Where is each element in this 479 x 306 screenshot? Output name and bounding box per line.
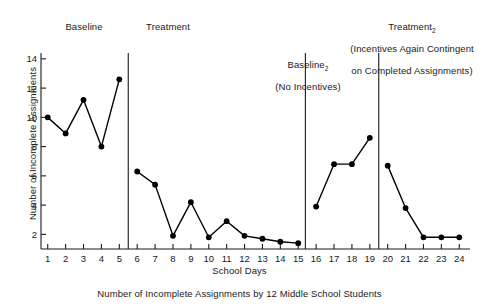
y-tick-label: 4: [32, 200, 37, 211]
data-point: [45, 114, 51, 120]
x-tick-label: 22: [418, 253, 429, 264]
data-point: [385, 163, 391, 169]
x-tick-label: 9: [188, 253, 193, 264]
plot-area: 2468101214123456789101112131415161718192…: [0, 0, 479, 306]
x-tick-label: 20: [382, 253, 393, 264]
data-point: [421, 234, 427, 240]
data-point: [313, 204, 319, 210]
x-tick-label: 12: [239, 253, 250, 264]
x-tick-label: 18: [347, 253, 358, 264]
x-tick-label: 15: [293, 253, 304, 264]
data-point: [438, 234, 444, 240]
data-point: [295, 240, 301, 246]
x-tick-label: 13: [257, 253, 268, 264]
series-line-treatment-1: [137, 171, 298, 243]
data-point: [331, 161, 337, 167]
x-tick-label: 10: [203, 253, 214, 264]
data-point: [224, 218, 230, 224]
data-point: [152, 182, 158, 188]
y-tick-label: 6: [32, 170, 37, 181]
data-point: [116, 76, 122, 82]
x-tick-label: 4: [99, 253, 104, 264]
data-point: [277, 239, 283, 245]
y-tick-label: 14: [26, 53, 37, 64]
data-point: [170, 233, 176, 239]
data-point: [456, 234, 462, 240]
x-tick-label: 1: [45, 253, 50, 264]
y-tick-label: 10: [26, 112, 37, 123]
x-tick-label: 21: [400, 253, 411, 264]
x-tick-label: 11: [222, 253, 232, 264]
data-point: [349, 161, 355, 167]
x-tick-label: 24: [454, 253, 465, 264]
x-tick-label: 6: [135, 253, 140, 264]
data-point: [134, 169, 140, 175]
data-point: [188, 199, 194, 205]
chart-figure: Baseline Treatment Baseline2 (No Incenti…: [0, 0, 479, 306]
y-tick-label: 8: [32, 141, 37, 152]
series-line-treatment-2: [388, 166, 460, 238]
data-point: [403, 205, 409, 211]
y-tick-label: 12: [26, 83, 37, 94]
x-tick-label: 14: [275, 253, 286, 264]
x-tick-label: 16: [311, 253, 322, 264]
x-tick-label: 3: [81, 253, 86, 264]
x-tick-label: 7: [152, 253, 157, 264]
data-point: [99, 144, 105, 150]
x-tick-label: 17: [329, 253, 340, 264]
data-point: [81, 97, 87, 103]
x-tick-label: 19: [365, 253, 376, 264]
data-point: [63, 131, 69, 137]
x-tick-label: 8: [170, 253, 175, 264]
data-point: [260, 236, 266, 242]
data-point: [242, 233, 248, 239]
x-tick-label: 5: [117, 253, 122, 264]
x-tick-label: 23: [436, 253, 447, 264]
series-line-baseline-2: [316, 138, 370, 207]
y-tick-label: 2: [32, 229, 37, 240]
data-point: [206, 234, 212, 240]
series-line-baseline-1: [48, 79, 120, 146]
data-point: [367, 135, 373, 141]
x-tick-label: 2: [63, 253, 68, 264]
